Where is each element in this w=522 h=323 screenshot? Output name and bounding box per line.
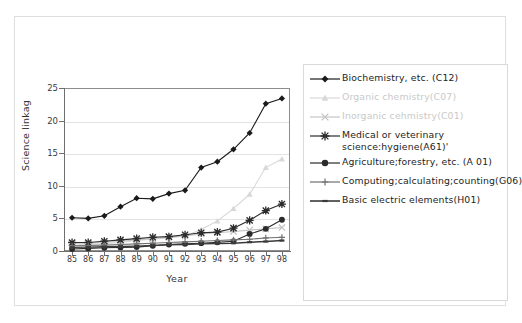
legend-label: Computing;calculating;counting(G06) bbox=[342, 174, 522, 187]
legend-label: Basic electric elements(H01) bbox=[342, 193, 480, 206]
legend-label: Inorganic cehmistry(C01) bbox=[342, 109, 463, 122]
legend-marker-plus-icon bbox=[308, 174, 342, 190]
y-tick-label: 25 bbox=[30, 84, 58, 92]
data-point-asterisk bbox=[278, 200, 286, 208]
series-line bbox=[72, 98, 282, 218]
y-tick-label: 15 bbox=[30, 149, 58, 157]
data-point-asterisk bbox=[246, 216, 254, 224]
data-point-circle bbox=[322, 160, 328, 166]
legend-marker-dash-icon bbox=[308, 193, 342, 209]
data-point-circle bbox=[279, 217, 285, 223]
x-tick-mark bbox=[153, 252, 154, 256]
data-point-diamond bbox=[166, 191, 172, 197]
legend-item[interactable]: Organic chemistry(C07) bbox=[308, 90, 503, 106]
x-tick-mark bbox=[234, 252, 235, 256]
y-tick-label: 5 bbox=[30, 214, 58, 222]
legend-label: Agriculture;forestry, etc. (A 01) bbox=[342, 155, 492, 168]
data-point-diamond bbox=[117, 204, 123, 210]
data-point-diamond bbox=[263, 101, 269, 107]
data-point-plus bbox=[322, 179, 329, 186]
data-point-diamond bbox=[150, 196, 156, 202]
y-axis-title: Science linkag bbox=[20, 81, 31, 191]
x-tick-mark bbox=[185, 252, 186, 256]
data-point-triangle bbox=[247, 191, 253, 197]
legend-item[interactable]: Agriculture;forestry, etc. (A 01) bbox=[308, 155, 503, 171]
data-point-diamond bbox=[85, 215, 91, 221]
y-tick-label: 0 bbox=[30, 247, 58, 255]
legend-label: Medical or veterinary science:hygiene(A6… bbox=[342, 128, 503, 152]
x-tick-mark bbox=[121, 252, 122, 256]
x-tick-mark bbox=[217, 252, 218, 256]
y-tick-label: 20 bbox=[30, 117, 58, 125]
x-tick-mark bbox=[266, 252, 267, 256]
x-tick-mark bbox=[72, 252, 73, 256]
legend-label: Organic chemistry(C07) bbox=[342, 90, 456, 103]
legend-item[interactable]: Computing;calculating;counting(G06) bbox=[308, 174, 503, 190]
chart-legend: Biochemistry, etc. (C12)Organic chemistr… bbox=[303, 64, 508, 301]
data-point-asterisk bbox=[197, 229, 205, 237]
data-point-asterisk bbox=[181, 231, 189, 239]
legend-marker-asterisk-icon bbox=[308, 128, 342, 144]
x-axis-line bbox=[64, 251, 291, 252]
data-point-circle bbox=[247, 231, 253, 237]
x-tick-mark bbox=[88, 252, 89, 256]
legend-marker-cross-icon bbox=[308, 109, 342, 125]
plot-container: Science linkag 0510152025 85868788899091… bbox=[0, 0, 303, 323]
data-point-asterisk bbox=[321, 132, 330, 141]
data-point-diamond bbox=[69, 215, 75, 221]
x-tick-mark bbox=[137, 252, 138, 256]
data-point-triangle bbox=[279, 156, 285, 162]
legend-marker-circle-icon bbox=[308, 155, 342, 171]
legend-marker-diamond-icon bbox=[308, 71, 342, 87]
legend-item[interactable]: Basic electric elements(H01) bbox=[308, 193, 503, 209]
series-lines bbox=[64, 88, 290, 251]
legend-item[interactable]: Biochemistry, etc. (C12) bbox=[308, 71, 503, 87]
legend-label: Biochemistry, etc. (C12) bbox=[342, 71, 458, 84]
y-tick-label: 10 bbox=[30, 182, 58, 190]
x-axis-title: Year bbox=[64, 273, 290, 284]
data-point-diamond bbox=[101, 213, 107, 219]
x-tick-mark bbox=[282, 252, 283, 256]
x-tick-mark bbox=[104, 252, 105, 256]
data-point-triangle bbox=[263, 164, 269, 170]
data-point-asterisk bbox=[213, 228, 221, 236]
data-point-asterisk bbox=[229, 224, 237, 232]
legend-item[interactable]: Medical or veterinary science:hygiene(A6… bbox=[308, 128, 503, 152]
data-point-asterisk bbox=[262, 207, 270, 215]
x-tick-mark bbox=[250, 252, 251, 256]
data-point-diamond bbox=[134, 195, 140, 201]
data-point-circle bbox=[263, 226, 269, 232]
data-point-diamond bbox=[322, 76, 329, 83]
legend-item[interactable]: Inorganic cehmistry(C01) bbox=[308, 109, 503, 125]
data-point-plus bbox=[263, 235, 269, 241]
x-tick-mark bbox=[169, 252, 170, 256]
legend-marker-triangle-icon bbox=[308, 90, 342, 106]
x-tick-label: 98 bbox=[271, 255, 293, 264]
data-point-diamond bbox=[279, 95, 285, 101]
x-tick-mark bbox=[201, 252, 202, 256]
